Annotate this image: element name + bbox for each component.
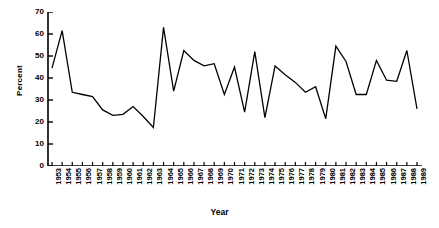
x-tick-label: 1970 bbox=[227, 168, 235, 185]
x-tick-label: 1958 bbox=[106, 168, 114, 185]
x-tick-label: 1976 bbox=[288, 168, 296, 185]
x-tick-label: 1984 bbox=[369, 168, 377, 185]
x-tick-label: 1971 bbox=[238, 168, 246, 185]
x-tick-label: 1965 bbox=[177, 168, 185, 185]
y-tick-label: 50 bbox=[26, 52, 44, 60]
x-tick-label: 1986 bbox=[390, 168, 398, 185]
x-tick-label: 1968 bbox=[207, 168, 215, 185]
x-tick-label: 1962 bbox=[146, 168, 154, 185]
x-tick-label: 1983 bbox=[359, 168, 367, 185]
x-axis-tick-labels: 1953195419551956195719581959196019611962… bbox=[47, 168, 422, 202]
plot-area bbox=[47, 12, 422, 166]
x-tick-label: 1987 bbox=[400, 168, 408, 185]
x-tick-label: 1972 bbox=[248, 168, 256, 185]
x-tick-label: 1967 bbox=[197, 168, 205, 185]
axes-group bbox=[48, 12, 422, 166]
x-tick-label: 1963 bbox=[156, 168, 164, 185]
x-tick-label: 1960 bbox=[126, 168, 134, 185]
chart-figure: Percent 010203040506070 1953195419551956… bbox=[0, 0, 439, 228]
y-tick-label: 20 bbox=[26, 118, 44, 126]
x-tick-label: 1964 bbox=[167, 168, 175, 185]
x-tick-label: 1988 bbox=[410, 168, 418, 185]
x-tick-label: 1955 bbox=[75, 168, 83, 185]
x-axis-title-text: Year bbox=[211, 207, 229, 217]
x-tick-label: 1979 bbox=[319, 168, 327, 185]
data-series-line bbox=[52, 27, 417, 127]
x-tick-label: 1953 bbox=[55, 168, 63, 185]
x-tick-label: 1956 bbox=[85, 168, 93, 185]
x-tick-label: 1977 bbox=[298, 168, 306, 185]
x-tick-label: 1982 bbox=[349, 168, 357, 185]
x-tick-label: 1959 bbox=[116, 168, 124, 185]
x-tick-label: 1981 bbox=[339, 168, 347, 185]
y-axis-title-text: Percent bbox=[15, 65, 24, 96]
y-axis-tick-labels: 010203040506070 bbox=[24, 0, 44, 160]
line-chart-svg bbox=[47, 12, 422, 166]
x-tick-label: 1969 bbox=[217, 168, 225, 185]
x-tick-label: 1974 bbox=[268, 168, 276, 185]
x-tick-label: 1980 bbox=[329, 168, 337, 185]
y-tick-label: 30 bbox=[26, 96, 44, 104]
x-tick-label: 1957 bbox=[96, 168, 104, 185]
x-tick-label: 1975 bbox=[278, 168, 286, 185]
y-tick-label: 70 bbox=[26, 8, 44, 16]
x-tick-label: 1954 bbox=[65, 168, 73, 185]
y-tick-label: 10 bbox=[26, 140, 44, 148]
x-tick-label: 1978 bbox=[308, 168, 316, 185]
x-tick-label: 1961 bbox=[136, 168, 144, 185]
y-tick-label: 40 bbox=[26, 74, 44, 82]
y-tick-label: 0 bbox=[26, 162, 44, 170]
y-tick-label: 60 bbox=[26, 30, 44, 38]
x-tick-label: 1985 bbox=[379, 168, 387, 185]
x-tick-label: 1973 bbox=[258, 168, 266, 185]
x-tick-label: 1966 bbox=[187, 168, 195, 185]
x-tick-label: 1989 bbox=[420, 168, 428, 185]
x-axis-title: Year bbox=[0, 207, 439, 217]
